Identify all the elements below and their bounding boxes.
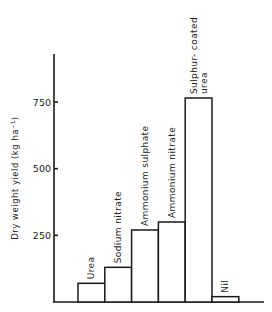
bar-nil (212, 297, 239, 302)
y-tick-label: 250 (33, 230, 51, 241)
bar-chart: Dry weight yield (kg ha⁻¹) 250500750 Ure… (0, 0, 272, 312)
bars-group (78, 98, 239, 302)
bar-sulphur-coated-urea (185, 98, 212, 302)
bar-ammonium-sulphate (132, 230, 159, 302)
bar-label: Nil (220, 280, 230, 293)
bar-label: Sulphur- coated (189, 17, 199, 94)
y-tick-label: 500 (33, 163, 51, 174)
bar-ammonium-nitrate (158, 222, 185, 302)
bar-label: Ammonium nitrate (167, 127, 177, 218)
y-tick-label: 750 (33, 97, 51, 108)
bar-label: Urea (86, 257, 96, 280)
bar-sodium-nitrate (105, 267, 132, 302)
bar-label: Sodium nitrate (113, 191, 123, 263)
bar-label: urea (199, 72, 209, 94)
bar-label: Ammonium sulphate (140, 126, 150, 226)
y-axis-label: Dry weight yield (kg ha⁻¹) (10, 116, 20, 239)
bar-urea (78, 283, 105, 302)
